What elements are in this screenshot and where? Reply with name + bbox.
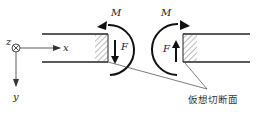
right-cut-face-hatch xyxy=(183,34,197,62)
left-moment-arrowhead-icon xyxy=(97,21,107,30)
right-moment-label: M xyxy=(160,7,172,18)
x-axis-label: x xyxy=(63,42,69,53)
right-moment-arrowhead-icon xyxy=(180,20,190,30)
left-cut-face-hatch xyxy=(95,34,108,62)
coordinate-axes: z x y xyxy=(5,36,69,102)
z-axis-label: z xyxy=(5,36,12,47)
left-force-label: F xyxy=(120,41,129,52)
right-force: F xyxy=(162,40,180,62)
beam-cut-diagram: z x y M F M F xyxy=(0,0,260,116)
virtual-cut-plane-label: 仮想切断面 xyxy=(188,94,238,105)
left-force: F xyxy=(111,40,129,64)
y-axis-label: y xyxy=(12,91,19,102)
right-force-arrowhead-icon xyxy=(172,40,180,48)
left-moment-label: M xyxy=(110,7,122,18)
z-axis-into-page-icon xyxy=(12,44,20,52)
right-leader-line xyxy=(185,63,207,89)
right-force-label: F xyxy=(162,43,171,54)
right-beam-segment xyxy=(183,34,250,62)
